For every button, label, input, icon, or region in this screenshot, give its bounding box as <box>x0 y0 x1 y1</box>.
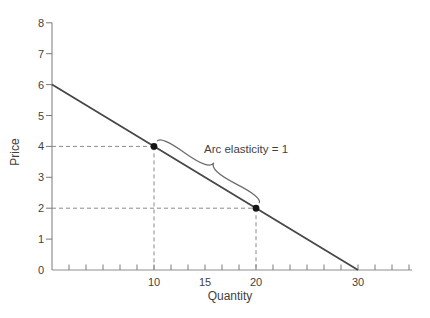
y-tick-label: 4 <box>38 140 44 152</box>
y-tick-label: 2 <box>38 202 44 214</box>
demand-line <box>52 85 358 270</box>
y-tick-label: 8 <box>38 17 44 29</box>
y-tick-label: 6 <box>38 79 44 91</box>
arc-elasticity-annotation: Arc elasticity = 1 <box>204 143 288 155</box>
x-tick-label: 30 <box>352 276 364 288</box>
arc-elasticity-figure: 01234567810152030 Price Quantity Arc ela… <box>0 0 430 318</box>
x-axis-title: Quantity <box>208 289 253 303</box>
y-tick-label: 7 <box>38 48 44 60</box>
y-tick-label: 5 <box>38 110 44 122</box>
data-point <box>253 205 260 212</box>
chart-canvas: 01234567810152030 Price Quantity Arc ela… <box>0 0 430 318</box>
x-tick-label: 15 <box>199 276 211 288</box>
data-point <box>151 143 158 150</box>
y-tick-label: 3 <box>38 171 44 183</box>
x-tick-label: 10 <box>148 276 160 288</box>
y-tick-label: 1 <box>38 233 44 245</box>
y-tick-label: 0 <box>38 264 44 276</box>
y-axis-title: Price <box>8 138 22 166</box>
x-tick-label: 20 <box>250 276 262 288</box>
